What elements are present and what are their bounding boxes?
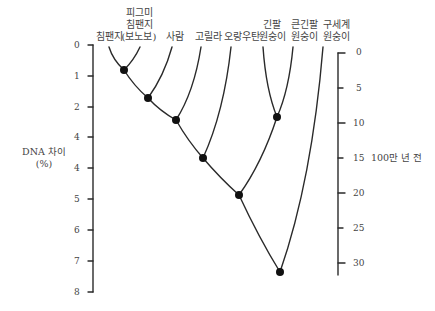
right-axis-title: 100만 년 전 [371,152,422,164]
left-tick: 1 [74,71,80,81]
left-tick: 6 [74,225,80,235]
branch-orangutan [203,47,231,158]
branch-siamang [277,47,293,117]
left-tick: 4 [74,132,80,142]
right-tick: 20 [353,188,364,198]
taxon-label-old-world-monkey: 구세계 원숭이 [316,7,356,43]
left-tick: 4 [74,163,80,173]
branch-hominoidea [239,195,280,272]
divergence-nodes [120,66,284,276]
right-tick: 15 [353,153,364,163]
left-tick: 8 [74,287,80,297]
left-tick: 0 [74,40,80,50]
left-axis-title: DNA 차이 (%) [14,146,74,170]
branch-homininae [176,120,203,158]
left-tick: 2 [74,102,80,112]
branch-old-world-monkey [280,47,323,272]
node-dot [144,94,152,102]
right-tick: 0 [356,47,362,57]
axis-title-line: (%) [14,158,74,170]
node-dot [120,66,128,74]
branch-hominidae [203,158,239,195]
node-dot [273,113,281,121]
branch-gorilla [176,47,201,120]
node-dot [172,116,180,124]
branch-hominini [148,98,176,120]
right-tick: 30 [353,258,364,268]
node-dot [235,191,243,199]
node-dot [276,268,284,276]
right-axis-ticks [338,53,345,263]
left-axis-ticks [88,45,93,292]
label-line [316,7,356,19]
branch-chimp-clade [124,70,148,98]
right-tick: 10 [353,118,364,128]
phylogeny-diagram: 침팬지 피그미 침팬지 (보노보) 사람 고릴라 오랑우탄 긴팔 원숭이 큰긴팔… [0,0,435,311]
label-line: 원숭이 [316,31,356,43]
left-tick: 7 [74,256,80,266]
right-tick: 5 [356,83,362,93]
axis-title-line: DNA 차이 [14,146,74,158]
branch-chimpanzee [109,47,124,70]
left-tick: 5 [74,194,80,204]
branch-human [148,47,172,98]
branch-hylobatidae [239,117,277,195]
node-dot [199,154,207,162]
right-tick: 25 [353,223,364,233]
branch-gibbon [263,47,277,117]
branch-bonobo [124,47,140,70]
label-line: 구세계 [316,19,356,31]
